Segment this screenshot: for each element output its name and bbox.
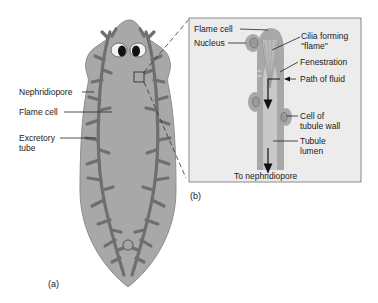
label-cilia-2: "flame" [301, 41, 328, 51]
panel-label-b: (b) [190, 191, 201, 201]
label-nucleus: Nucleus [194, 38, 225, 48]
label-excretory-tube-1: Excretory [19, 133, 55, 143]
label-tubule-lumen-2: lumen [300, 146, 323, 156]
label-fenestration: Fenestration [300, 57, 347, 67]
label-flame-cell-a: Flame cell [19, 107, 58, 117]
label-to-nephridiopore: To nephridiopore [234, 171, 297, 181]
label-excretory-tube-2: tube [19, 143, 36, 153]
label-cilia-1: Cilia forming [301, 31, 348, 41]
label-tubule-lumen-1: Tubule [300, 136, 326, 146]
label-path-of-fluid: Path of fluid [300, 74, 345, 84]
label-flame-cell-b: Flame cell [194, 24, 233, 34]
label-cell-of-tubule-1: Cell of [300, 111, 324, 121]
panel-label-a: (a) [48, 279, 59, 289]
label-nephridiopore: Nephridiopore [19, 87, 72, 97]
label-cell-of-tubule-2: tubule wall [300, 121, 340, 131]
